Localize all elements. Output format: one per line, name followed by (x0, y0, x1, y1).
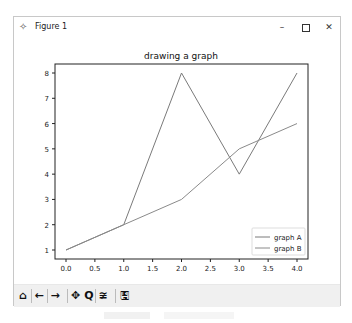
x-tick-label: 2.0 (176, 265, 187, 273)
legend-label: graph A (274, 234, 302, 242)
y-tick-label: 2 (45, 222, 49, 230)
x-tick-label: 3.5 (263, 265, 274, 273)
x-tick-label: 1.5 (147, 265, 158, 273)
y-tick-label: 5 (45, 146, 49, 154)
x-tick-label: 0.0 (60, 265, 71, 273)
y-tick-label: 6 (45, 121, 50, 129)
plot-canvas[interactable]: drawing a graph 12345678 0.00.51.01.52.0… (0, 0, 352, 323)
y-tick-label: 1 (45, 247, 49, 255)
y-tick-label: 4 (45, 171, 50, 179)
x-tick-label: 4.0 (291, 265, 302, 273)
y-axis: 12345678 (45, 70, 55, 255)
y-tick-label: 7 (45, 95, 49, 103)
x-tick-label: 0.5 (89, 265, 100, 273)
x-axis: 0.00.51.01.52.02.53.03.54.0 (60, 259, 302, 273)
y-tick-label: 3 (45, 196, 49, 204)
chart-title: drawing a graph (144, 51, 218, 61)
y-tick-label: 8 (45, 70, 49, 78)
x-tick-label: 1.0 (118, 265, 129, 273)
x-tick-label: 2.5 (205, 265, 216, 273)
caption-placeholder (164, 312, 234, 319)
legend: graph Agraph B (252, 228, 305, 255)
x-tick-label: 3.0 (234, 265, 245, 273)
caption-placeholder (104, 312, 150, 319)
legend-label: graph B (274, 245, 302, 253)
